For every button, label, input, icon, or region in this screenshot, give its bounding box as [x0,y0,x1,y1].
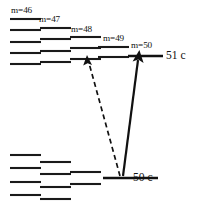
transition-dashed [83,55,120,176]
manifold-label-m47: m=47 [39,15,60,24]
upper-column-m49 [98,47,129,57]
lower-column-m47 [40,162,71,199]
upper-column-m47 [40,28,71,62]
manifold-label-m50: m=50 [131,41,152,50]
lower-column-m48 [70,172,101,184]
dashed-arrow-head [83,55,92,65]
lower-column-m46 [10,155,41,195]
upper-column-m46 [10,19,41,64]
transition-solid [123,50,144,176]
state-label-50c: 50 c [133,172,153,184]
diagram-canvas [0,0,197,206]
energy-level-diagram: m=46 m=47 m=48 m=49 m=50 51 c 50 c [0,0,197,206]
solid-arrow-shaft [123,60,138,176]
upper-column-m48 [70,37,101,59]
manifold-label-m48: m=48 [71,25,92,34]
manifold-label-m49: m=49 [103,34,124,43]
state-label-51c: 51 c [166,50,186,62]
manifold-label-m46: m=46 [11,6,32,15]
dashed-arrow-shaft [89,63,120,176]
